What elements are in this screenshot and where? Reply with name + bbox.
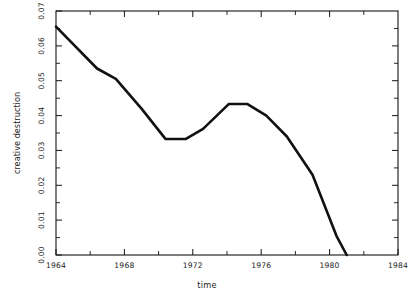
y-tick-label: 0.05 bbox=[37, 72, 46, 90]
plot-frame bbox=[56, 11, 398, 255]
y-tick-label: 0.00 bbox=[37, 246, 46, 264]
y-tick-labels: 0.00 0.01 0.02 0.03 0.04 0.05 0.06 0.07 bbox=[37, 2, 46, 264]
y-axis-minor-ticks bbox=[56, 29, 60, 238]
x-tick-label: 1972 bbox=[183, 261, 203, 270]
data-series-line bbox=[56, 27, 347, 255]
x-tick-label: 1968 bbox=[114, 261, 134, 270]
y-tick-label: 0.07 bbox=[37, 2, 46, 20]
line-chart-svg: 0.00 0.01 0.02 0.03 0.04 0.05 0.06 0.07 … bbox=[0, 0, 414, 301]
x-tick-label: 1976 bbox=[251, 261, 271, 270]
y-axis-label: creative destruction bbox=[12, 92, 22, 174]
y-axis-right-ticks bbox=[392, 29, 398, 238]
chart-figure: 0.00 0.01 0.02 0.03 0.04 0.05 0.06 0.07 … bbox=[0, 0, 414, 301]
x-tick-label: 1984 bbox=[388, 261, 408, 270]
y-tick-label: 0.02 bbox=[37, 176, 46, 194]
y-tick-label: 0.03 bbox=[37, 142, 46, 160]
x-tick-label: 1964 bbox=[46, 261, 66, 270]
x-axis-label: time bbox=[197, 280, 217, 290]
y-tick-label: 0.04 bbox=[37, 107, 46, 125]
x-axis-minor-ticks bbox=[90, 251, 364, 255]
x-tick-label: 1980 bbox=[320, 261, 340, 270]
x-axis-top-ticks bbox=[90, 11, 364, 17]
y-tick-label: 0.06 bbox=[37, 37, 46, 55]
x-tick-labels: 1964 1968 1972 1976 1980 1984 bbox=[46, 261, 408, 270]
y-tick-label: 0.01 bbox=[37, 211, 46, 229]
